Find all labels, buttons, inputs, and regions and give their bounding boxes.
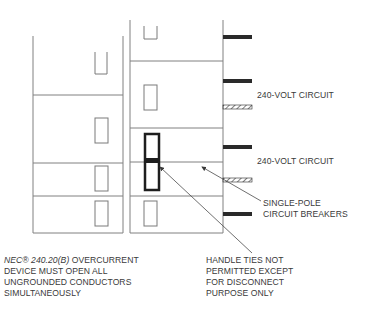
label-240-volt-circuit-top: 240-VOLT CIRCUIT [257, 90, 334, 101]
label-240-volt-circuit-bottom: 240-VOLT CIRCUIT [257, 156, 334, 167]
hatched-bus-stab [223, 105, 252, 109]
nec-note-text1: OVERCURRENT [72, 255, 139, 265]
nec-note-line3: UNGROUNDED CONDUCTORS [4, 277, 139, 288]
handle-ties-line4: PURPOSE ONLY [206, 288, 293, 299]
breaker-slot-icon [144, 85, 157, 110]
solid-bus-stab [223, 212, 252, 216]
handle-ties-line2: PERMITTED EXCEPT [206, 266, 293, 277]
solid-bus-stab [223, 35, 252, 39]
label-handle-ties: HANDLE TIES NOT PERMITTED EXCEPT FOR DIS… [206, 255, 293, 299]
right-panel-section [130, 20, 223, 233]
breaker-slot-icon [144, 26, 157, 39]
nec-note-line4: SIMULTANEOUSLY [4, 288, 139, 299]
solid-bus-stab [223, 145, 252, 149]
handle-tie-bar [145, 158, 159, 163]
solid-bus-stab [223, 79, 252, 83]
breaker-slot-icon [144, 201, 157, 226]
nec-note-line2: DEVICE MUST OPEN ALL [4, 266, 139, 277]
breaker-slot-icon [95, 118, 108, 143]
breaker-slot-icon [95, 201, 108, 226]
breaker-slot-icon [95, 52, 107, 74]
breaker-slot-icon [95, 166, 108, 191]
handle-ties-line1: HANDLE TIES NOT [206, 255, 293, 266]
nec-note-line1: NEC® 240.20(B) OVERCURRENT [4, 255, 139, 266]
bus-bar-group [223, 35, 252, 216]
nec-reference: NEC® 240.20(B) [4, 255, 69, 265]
label-single-pole-line1: SINGLE-POLE [263, 198, 348, 209]
label-single-pole-breakers: SINGLE-POLE CIRCUIT BREAKERS [263, 198, 348, 220]
handle-ties-line3: FOR DISCONNECT [206, 277, 293, 288]
left-panel-section [33, 36, 123, 233]
label-nec-note: NEC® 240.20(B) OVERCURRENT DEVICE MUST O… [4, 255, 139, 299]
label-single-pole-line2: CIRCUIT BREAKERS [263, 209, 348, 220]
